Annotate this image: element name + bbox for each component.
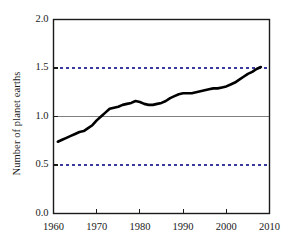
y-tick-label-0: 0.0: [21, 207, 49, 218]
x-tick-label-1990: 1990: [167, 221, 199, 232]
x-tick-label-2000: 2000: [210, 221, 242, 232]
y-tick-label-1: 1.0: [21, 110, 49, 121]
y-tick-label-1-5: 1.5: [21, 61, 49, 72]
chart-figure: Number of planet earths 1960197019801990…: [0, 0, 292, 247]
x-tick-label-1960: 1960: [38, 221, 70, 232]
x-tick-label-2010: 2010: [254, 221, 286, 232]
y-tick-label-2: 2.0: [21, 13, 49, 24]
x-tick-label-1980: 1980: [124, 221, 156, 232]
y-tick-label-0-5: 0.5: [21, 158, 49, 169]
x-tick-label-1970: 1970: [81, 221, 113, 232]
